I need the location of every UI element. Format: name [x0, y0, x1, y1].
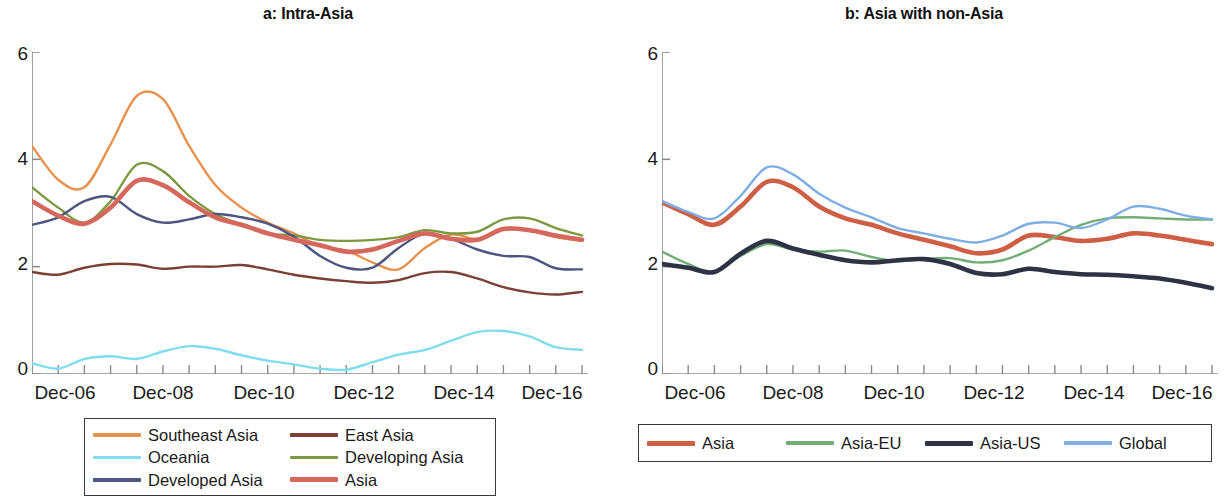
legend-b-item[interactable]: Asia-EU	[786, 435, 925, 452]
panel-a-svg	[32, 52, 588, 374]
legend-a-item[interactable]: Oceania	[93, 446, 290, 468]
legend-swatch-icon	[93, 456, 141, 460]
series-group	[32, 91, 582, 370]
legend-b-item[interactable]: Asia	[647, 435, 786, 452]
panel-asia-with-non-asia: b: Asia with non-Asia 6 4 2 0 Dec-06 Dec…	[616, 0, 1232, 498]
legend-swatch-icon	[925, 441, 973, 446]
panel-b-ytick-4: 4	[634, 148, 658, 170]
legend-swatch-icon	[1064, 441, 1112, 445]
chart-figure: a: Intra-Asia 6 4 2 0 Dec-06 Dec-08 Dec-…	[0, 0, 1232, 498]
legend-label: Asia	[702, 435, 734, 452]
legend-label: Southeast Asia	[148, 427, 258, 444]
legend-a-item[interactable]: Southeast Asia	[93, 424, 290, 446]
legend-a-item[interactable]: East Asia	[290, 424, 487, 446]
series-line-asia	[32, 179, 582, 251]
series-line-asia-us	[662, 241, 1212, 288]
panel-a-ytick-2: 2	[4, 253, 28, 275]
panel-b-svg	[662, 52, 1218, 374]
legend-label: Oceania	[148, 449, 209, 466]
legend-swatch-icon	[93, 433, 141, 437]
legend-a-item[interactable]: Asia	[290, 469, 487, 491]
legend-label: Developing Asia	[345, 449, 463, 466]
panel-a-ytick-4: 4	[4, 148, 28, 170]
panel-a-legend: Southeast AsiaEast AsiaOceaniaDeveloping…	[84, 418, 496, 496]
panel-intra-asia: a: Intra-Asia 6 4 2 0 Dec-06 Dec-08 Dec-…	[0, 0, 616, 498]
panel-a-xtick-dec16: Dec-16	[487, 382, 617, 404]
legend-label: Asia-EU	[841, 435, 902, 452]
panel-b-plot-area	[662, 52, 1218, 374]
panel-a-plot-area	[32, 52, 588, 374]
series-line-oceania	[32, 331, 582, 370]
axis-group	[662, 52, 1218, 374]
legend-label: Asia-US	[980, 435, 1041, 452]
panel-b-title: b: Asia with non-Asia	[616, 5, 1232, 23]
legend-label: Global	[1119, 435, 1167, 452]
panel-b-ytick-2: 2	[634, 253, 658, 275]
panel-a-ytick-6: 6	[4, 43, 28, 65]
legend-swatch-icon	[786, 441, 834, 445]
legend-label: East Asia	[345, 427, 414, 444]
panel-a-ytick-0: 0	[4, 358, 28, 380]
legend-swatch-icon	[290, 433, 338, 437]
panel-b-ytick-0: 0	[634, 358, 658, 380]
legend-swatch-icon	[647, 441, 695, 446]
panel-b-xtick-dec16: Dec-16	[1117, 382, 1232, 404]
legend-label: Asia	[345, 472, 377, 489]
legend-b-item[interactable]: Asia-US	[925, 435, 1064, 452]
legend-b-item[interactable]: Global	[1064, 435, 1203, 452]
legend-swatch-icon	[93, 478, 141, 482]
series-line-east-asia	[32, 264, 582, 295]
legend-a-item[interactable]: Developing Asia	[290, 446, 487, 468]
series-line-developed-asia	[32, 196, 582, 270]
panel-b-legend: AsiaAsia-EUAsia-USGlobal	[638, 424, 1212, 462]
panel-a-title: a: Intra-Asia	[0, 5, 616, 23]
legend-swatch-icon	[290, 456, 338, 460]
legend-label: Developed Asia	[148, 472, 263, 489]
axis-group	[32, 52, 588, 374]
legend-a-item[interactable]: Developed Asia	[93, 469, 290, 491]
series-group	[662, 166, 1212, 288]
panel-b-ytick-6: 6	[634, 43, 658, 65]
legend-swatch-icon	[290, 477, 338, 482]
